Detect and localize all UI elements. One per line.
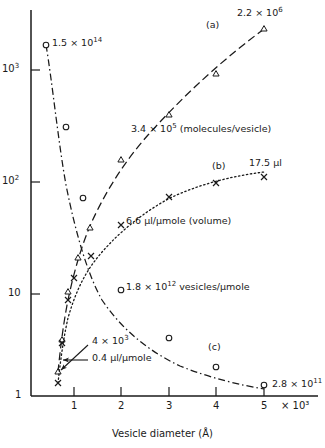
series-a-point — [55, 369, 61, 374]
series-a-point — [87, 225, 93, 230]
annotation-a-start: 4 × 103 — [92, 336, 129, 347]
series-c-point — [261, 382, 267, 388]
series-a-point — [118, 157, 124, 162]
axes — [31, 10, 318, 396]
series-b-line — [58, 172, 264, 383]
x-tick-label-1: 1 — [71, 400, 77, 411]
x-axis-title: Vesicle diameter (Å) — [0, 428, 325, 439]
curve-label-c: (c) — [208, 341, 221, 352]
annotation-c-mid: 1.8 × 1012 vesicles/μmole — [126, 282, 250, 293]
series-b-point — [88, 253, 94, 259]
series-c-point — [43, 42, 49, 48]
series-a-point — [166, 112, 172, 117]
series-a-point — [261, 26, 267, 31]
y-tick-label-1: 1 — [15, 389, 21, 400]
annotation-a-end: 2.2 × 106 — [237, 8, 283, 19]
y-tick-label-1000: 103 — [2, 62, 19, 74]
series-c-point — [118, 287, 124, 293]
series-c-point — [166, 335, 172, 341]
series-a-point — [213, 71, 219, 76]
annotation-a-mid: 3.4 × 105 (molecules/vesicle) — [131, 124, 271, 135]
series-a-point — [65, 289, 71, 294]
x-axis-multiplier: × 10³ — [281, 400, 309, 411]
y-tick-label-100: 102 — [2, 174, 19, 186]
annotation-b-mid: 6.6 μl/μmole (volume) — [126, 216, 231, 227]
annotation-b-end: 17.5 μl — [249, 158, 282, 169]
series-b-volume — [55, 172, 267, 386]
y-tick-label-10: 10 — [8, 287, 21, 298]
annotation-arrows — [61, 345, 88, 370]
x-tick-label-3: 3 — [166, 400, 172, 411]
series-c-point — [213, 364, 219, 370]
annotation-b-start: 0.4 μl/μmole — [92, 353, 152, 364]
series-a-molecules-per-vesicle — [55, 26, 267, 374]
x-tick-label-2: 2 — [118, 400, 124, 411]
curve-label-a: (a) — [206, 19, 219, 30]
series-a-point — [75, 255, 81, 260]
figure-container: 103 102 10 1 1 2 3 4 5 × 10³ (a) (b) (c)… — [0, 0, 325, 448]
series-b-point — [55, 380, 61, 386]
series-b-markers — [55, 174, 267, 386]
series-c-point — [80, 195, 86, 201]
series-b-point — [118, 222, 124, 228]
x-tick-label-5: 5 — [261, 400, 267, 411]
curve-label-b: (b) — [212, 160, 225, 171]
x-tick-label-4: 4 — [213, 400, 219, 411]
series-c-point — [63, 124, 69, 130]
series-a-line — [58, 29, 264, 372]
annotation-c-start: 1.5 × 1014 — [52, 38, 102, 49]
arrow-to-a-start — [61, 345, 88, 370]
annotation-c-end: 2.8 × 1011 — [272, 379, 322, 390]
series-b-point — [261, 174, 267, 180]
